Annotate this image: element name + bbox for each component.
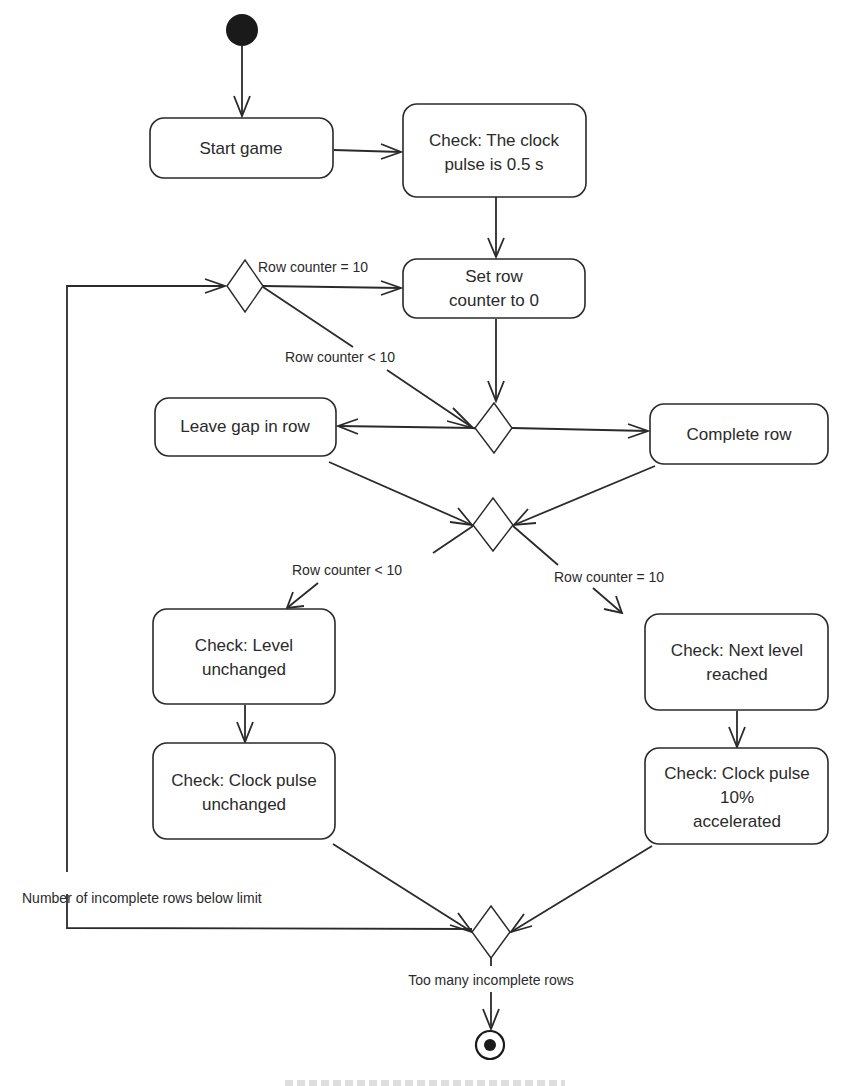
action-complete-row: Complete row [650,404,828,464]
action-next-level: Check: Next level reached [645,614,828,710]
action-label: Check: Clock pulse [171,771,317,790]
guard-label-row-counter-eq-10: Row counter = 10 [554,569,664,585]
action-label: reached [706,665,767,684]
decision-diamond-row-counter [473,498,513,551]
edge-d1-to-d2-b [387,370,473,428]
action-set-row-counter: Set row counter to 0 [403,259,585,318]
edge-d1-to-d2-a [263,287,353,347]
guard-label-row-counter-lt-10: Row counter < 10 [292,562,402,578]
action-label: unchanged [202,660,286,679]
action-label: Check: Level [195,636,293,655]
initial-node [226,14,258,46]
edge-d3-to-right-a [513,526,558,565]
activity-diagram: Start game Check: The clock pulse is 0.5… [0,0,854,1086]
decision-diamond-row-choice [475,403,512,453]
action-label: Leave gap in row [180,417,310,436]
action-label: counter to 0 [449,291,539,310]
action-check-clock-initial: Check: The clock pulse is 0.5 s [403,104,586,197]
action-label: Complete row [687,425,793,444]
action-label: Check: Clock pulse [664,764,810,783]
action-clock-accelerated: Check: Clock pulse 10% accelerated [645,748,828,844]
guard-label-row-counter-eq-10: Row counter = 10 [258,259,368,275]
edge-leavegap-to-d3 [329,462,472,525]
action-level-unchanged: Check: Level unchanged [153,609,335,704]
guard-label-too-many-incomplete: Too many incomplete rows [408,972,574,988]
guard-label-incomplete-below-limit: Number of incomplete rows below limit [22,890,262,906]
action-label: unchanged [202,795,286,814]
arrowhead [447,408,473,428]
action-label: Start game [199,139,282,158]
action-label: Check: The clock [429,131,560,150]
edges [67,46,745,1029]
action-clock-unchanged: Check: Clock pulse unchanged [153,743,335,839]
action-label: Set row [465,267,523,286]
decision-diamond-incomplete-rows [472,906,510,958]
edge-d2-to-completerow [512,428,648,431]
edge-d2-to-leavegap [338,426,475,428]
figure-caption-cropped [285,1080,565,1086]
edge-startgame-to-check [334,150,401,152]
action-label: pulse is 0.5 s [444,155,543,174]
edge-d3-to-left-a [433,526,473,553]
final-node [476,1031,504,1059]
action-label: Check: Next level [671,641,803,660]
edge-d1-to-setrow [263,286,401,288]
action-label: 10% [720,788,754,807]
edge-completerow-to-d3 [514,466,655,525]
action-leave-gap: Leave gap in row [155,398,336,456]
action-label: accelerated [693,812,781,831]
guard-label-row-counter-lt-10: Row counter < 10 [285,349,395,365]
action-start-game: Start game [150,118,333,178]
edge-clockunchanged-to-d4 [333,844,472,932]
edge-clockaccel-to-d4 [511,846,652,932]
